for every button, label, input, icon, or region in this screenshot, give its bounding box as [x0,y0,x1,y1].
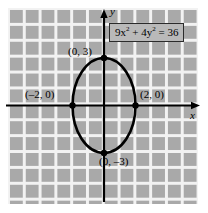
equation-term-c: = 36 [156,26,179,38]
x-axis-label: x [190,110,195,121]
point-top [101,55,107,61]
point-right [132,102,138,108]
label-point-top: (0, 3) [68,46,92,57]
point-left [69,102,75,108]
label-point-bottom: (0, –3) [99,156,128,167]
y-axis-label: y [110,6,115,17]
label-point-left: (–2, 0) [25,89,54,100]
equation-term-a: 9x [115,26,126,38]
equation-term-b: + 4y [130,26,153,38]
ellipse-figure: (0, 3) (–2, 0) (2, 0) (0, –3) y x 9x2 + … [0,0,208,213]
label-point-right: (2, 0) [140,89,164,100]
equation-box: 9x2 + 4y2 = 36 [109,23,184,42]
